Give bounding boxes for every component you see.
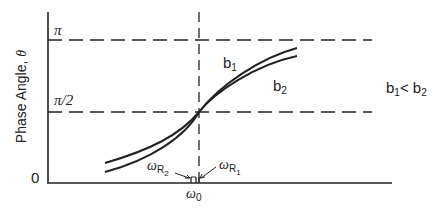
- subscript-1: 1: [236, 168, 240, 177]
- phase-angle-diagram: Phase Angle, θ π π/2 0 ω0 ωR2 ωR1 b1 b2 …: [0, 0, 445, 215]
- less-than-symbol: <: [400, 79, 409, 96]
- subscript-2: 2: [421, 87, 427, 98]
- omega-symbol: ω: [186, 186, 196, 201]
- label-omega-r1: ωR1: [219, 157, 241, 177]
- omega-symbol: ω: [219, 157, 229, 172]
- tick-label-omega0: ω0: [186, 186, 201, 203]
- subscript-2: 2: [164, 169, 168, 178]
- condition-label: b1< b2: [386, 80, 427, 98]
- y-axis-title: Phase Angle, θ: [13, 32, 30, 162]
- omega0-subscript: 0: [196, 192, 202, 203]
- subscript-1: 1: [231, 62, 237, 73]
- tick-label-pi: π: [54, 23, 62, 38]
- theta-symbol: θ: [14, 50, 29, 57]
- y-axis-title-text: Phase Angle,: [13, 57, 29, 143]
- omega-symbol: ω: [147, 158, 157, 173]
- tick-label-zero: 0: [31, 170, 39, 185]
- curve-label-b2: b2: [273, 78, 287, 96]
- omega-r1-arrow: [201, 167, 216, 178]
- subscript-2: 2: [281, 85, 287, 96]
- curve-label-b1: b1: [223, 55, 237, 73]
- b-letter: b: [413, 79, 421, 96]
- label-omega-r2: ωR2: [147, 158, 169, 178]
- tick-label-half-pi: π/2: [54, 93, 73, 108]
